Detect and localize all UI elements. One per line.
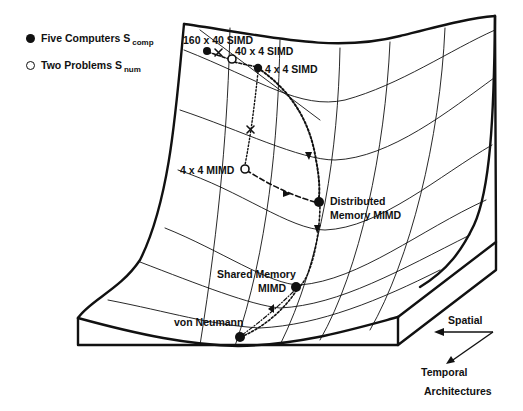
- legend-item-computers: Five Computers S comp: [26, 32, 154, 44]
- label-40x4-simd: 40 x 4 SIMD: [235, 45, 293, 57]
- legend-item-problems: Two Problems S num: [26, 59, 141, 71]
- label-temporal: Temporal: [421, 366, 467, 378]
- point-von-neumann: [235, 332, 245, 342]
- arrow-head: [305, 152, 312, 160]
- label-distributed-line2: Memory MIMD: [330, 209, 401, 221]
- base-right-top: [398, 16, 496, 317]
- temporal-arrow: [450, 332, 493, 362]
- legend-sub-computers: comp: [132, 38, 153, 47]
- point-160x40-simd: [203, 47, 211, 55]
- path-dashed-4x4-to-4x4simd: [234, 62, 257, 67]
- surface-right-edge: [420, 16, 495, 287]
- point-distributed-mimd: [314, 197, 324, 207]
- filled-circle-icon: [26, 34, 35, 43]
- label-spatial: Spatial: [448, 314, 482, 326]
- point-4x4-mimd: [241, 165, 249, 173]
- label-distributed-line1: Distributed: [330, 195, 385, 207]
- label-4x4-mimd: 4 x 4 MIMD: [180, 164, 234, 176]
- point-4x4-simd: [254, 64, 262, 72]
- legend-label-computers: Five Computers S: [41, 32, 130, 44]
- label-4x4-simd: 4 x 4 SIMD: [265, 63, 318, 75]
- point-shared-mimd: [291, 282, 301, 292]
- legend-label-problems: Two Problems S: [41, 59, 122, 71]
- arrow-head: [283, 190, 291, 197]
- legend-sub-problems: num: [124, 65, 141, 74]
- label-architectures: Architectures: [424, 385, 492, 397]
- base-front-right: [398, 242, 496, 345]
- path-mimd-to-distributed: [246, 170, 318, 203]
- open-circle-icon: [26, 61, 35, 70]
- label-von-neumann: von Neumann: [174, 316, 243, 328]
- path-simd-to-mimd: [244, 72, 258, 170]
- label-shared-line1: Shared Memory: [217, 268, 296, 280]
- label-shared-line2: MIMD: [258, 282, 286, 294]
